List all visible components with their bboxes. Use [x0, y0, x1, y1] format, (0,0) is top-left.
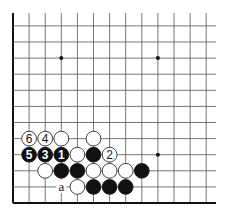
- stone-circle: [70, 180, 85, 195]
- black-stone: [86, 180, 101, 195]
- stone-circle: [70, 163, 85, 178]
- white-stone-2: 2: [102, 147, 117, 162]
- white-stone: [102, 163, 117, 178]
- board-stones: 645312: [22, 131, 150, 194]
- star-point: [156, 153, 160, 157]
- stone-circle: [102, 180, 117, 195]
- black-stone: [54, 163, 69, 178]
- black-stone: [70, 163, 85, 178]
- stone-circle: [134, 163, 149, 178]
- board-markers: a: [56, 179, 66, 194]
- stone-circle: [54, 163, 69, 178]
- point-marker-a: a: [58, 179, 64, 194]
- move-number: 1: [58, 148, 65, 162]
- stone-circle: [86, 147, 101, 162]
- stone-circle: [86, 131, 101, 146]
- white-stone: [118, 163, 133, 178]
- move-number: 3: [42, 148, 49, 162]
- white-stone: [86, 163, 101, 178]
- stone-circle: [118, 180, 133, 195]
- move-number: 5: [26, 148, 33, 162]
- black-stone: [86, 147, 101, 162]
- star-point: [156, 56, 160, 60]
- stone-circle: [54, 131, 69, 146]
- stone-circle: [38, 163, 53, 178]
- black-stone: [102, 180, 117, 195]
- star-point: [59, 56, 63, 60]
- go-board: a 645312: [0, 0, 230, 215]
- stone-circle: [86, 180, 101, 195]
- white-stone: [38, 163, 53, 178]
- stone-circle: [86, 163, 101, 178]
- white-stone: [86, 131, 101, 146]
- black-stone: [118, 180, 133, 195]
- move-number: 6: [26, 132, 33, 146]
- stone-circle: [70, 147, 85, 162]
- white-stone: [54, 131, 69, 146]
- white-stone: [70, 180, 85, 195]
- stone-circle: [102, 163, 117, 178]
- stone-circle: [118, 163, 133, 178]
- move-number: 4: [42, 132, 49, 146]
- black-stone-3: 3: [38, 147, 53, 162]
- black-stone: [134, 163, 149, 178]
- white-stone: [70, 147, 85, 162]
- white-stone-4: 4: [38, 131, 53, 146]
- black-stone-1: 1: [54, 147, 69, 162]
- move-number: 2: [106, 148, 113, 162]
- black-stone-5: 5: [22, 147, 37, 162]
- white-stone-6: 6: [22, 131, 37, 146]
